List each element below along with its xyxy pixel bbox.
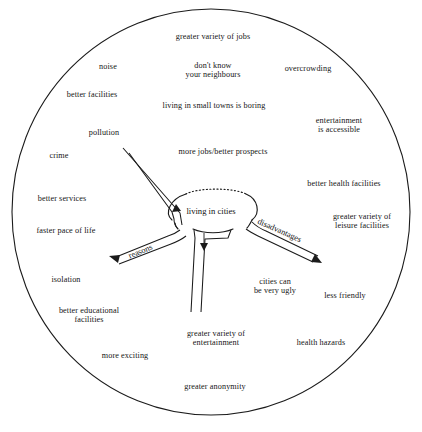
idea-entertainment-is-accessible: entertainment is accessible	[316, 116, 362, 134]
idea-better-health-facilities: better health facilities	[307, 179, 380, 188]
idea-faster-pace-of-life: faster pace of life	[37, 226, 96, 235]
idea-overcrowding: overcrowding	[285, 64, 332, 73]
idea-dont-know-your-neighbours: don't know your neighbours	[186, 61, 241, 79]
idea-more-jobs-better-prospects: more jobs/better prospects	[178, 147, 267, 156]
idea-greater-variety-of-leisure-facilities: greater variety of leisure facilities	[333, 212, 391, 230]
idea-better-facilities: better facilities	[67, 90, 118, 99]
idea-cities-can-be-very-ugly: cities can be very ugly	[254, 277, 296, 295]
idea-health-hazards: health hazards	[297, 338, 345, 347]
idea-pollution: pollution	[89, 128, 119, 137]
idea-better-educational-facilities: better educational facilities	[59, 306, 119, 324]
idea-noise: noise	[99, 62, 117, 71]
idea-greater-variety-of-entertainment: greater variety of entertainment	[187, 329, 245, 347]
idea-greater-variety-of-jobs: greater variety of jobs	[176, 32, 250, 41]
branch-up-left	[123, 148, 182, 229]
idea-crime: crime	[49, 151, 68, 160]
idea-more-exciting: more exciting	[102, 351, 149, 360]
idea-living-in-small-towns-is-boring: living in small towns is boring	[163, 101, 266, 110]
idea-less-friendly: less friendly	[324, 291, 366, 300]
center-node-label: living in cities	[186, 206, 235, 216]
idea-better-services: better services	[38, 194, 87, 203]
branch-down	[191, 230, 231, 312]
idea-isolation: isolation	[51, 275, 80, 284]
idea-greater-anonymity: greater anonymity	[184, 382, 246, 391]
mindmap-canvas: living in cities reasons disadvantages g…	[0, 0, 422, 432]
